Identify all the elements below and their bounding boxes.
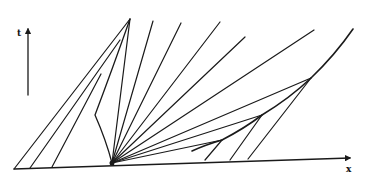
left-characteristic-line	[14, 19, 130, 169]
x-axis-label: x	[346, 164, 351, 174]
x-axis-baseline	[14, 158, 350, 169]
t-axis-label: t	[17, 28, 21, 38]
left-characteristic-line	[30, 40, 120, 168]
fan-characteristic-line	[112, 115, 262, 163]
fan-characteristic-line	[112, 37, 245, 163]
characteristics-diagram	[0, 0, 369, 187]
fan-characteristic-line	[112, 19, 130, 163]
left-shock-curve	[95, 19, 130, 163]
right-characteristic-line	[230, 115, 262, 160]
right-shock-curve	[192, 29, 353, 151]
fan-characteristic-line	[112, 22, 220, 163]
fan-characteristic-line	[112, 78, 311, 163]
fan-origin	[110, 161, 115, 166]
